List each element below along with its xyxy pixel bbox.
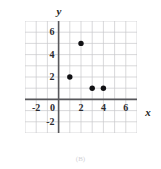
data-point (78, 41, 83, 46)
y-tick-label: 4 (50, 50, 55, 60)
gridlines (25, 21, 137, 133)
data-point (67, 74, 72, 79)
x-tick-label: 4 (101, 103, 106, 113)
y-tick-label: -2 (46, 117, 54, 127)
x-tick-label: 6 (123, 103, 128, 113)
x-tick-label: 0 (50, 103, 55, 113)
data-point (101, 86, 106, 91)
y-axis-label: y (57, 6, 62, 17)
x-axis-label: x (145, 107, 151, 118)
x-tick-label: -2 (32, 103, 40, 113)
data-point (90, 86, 95, 91)
plot-area (25, 21, 137, 133)
x-tick-label: 2 (79, 103, 84, 113)
grid-and-points-svg (25, 21, 137, 133)
figure-caption: (B) (0, 156, 161, 163)
y-tick-label: 2 (50, 72, 55, 82)
y-tick-label: 6 (50, 27, 55, 37)
coordinate-plane-figure: -20246-2246 x y (B) (0, 0, 161, 169)
